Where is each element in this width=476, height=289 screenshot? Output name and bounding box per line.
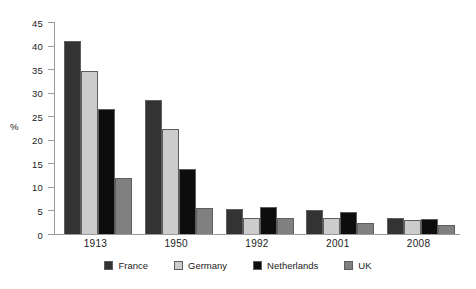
legend-label: UK: [358, 260, 371, 271]
y-tick-label: 30: [32, 88, 43, 99]
y-tick-label: 35: [32, 64, 43, 75]
bar-group-bars: [217, 22, 298, 234]
y-tick-label: 25: [32, 111, 43, 122]
bar-group-bars: [55, 22, 136, 234]
bar: [357, 223, 374, 234]
y-axis-tick: 30: [48, 93, 54, 94]
y-tick-mark: [48, 22, 54, 23]
legend-item: Netherlands: [253, 260, 318, 271]
y-tick-label: 45: [32, 17, 43, 28]
bar: [226, 209, 243, 234]
y-tick-mark: [48, 69, 54, 70]
y-tick-label: 15: [32, 158, 43, 169]
y-tick-mark: [48, 187, 54, 188]
legend-item: UK: [344, 260, 371, 271]
bar: [260, 207, 277, 234]
bar: [145, 100, 162, 234]
bar: [196, 208, 213, 234]
y-tick-label: 10: [32, 182, 43, 193]
y-tick-label: 40: [32, 41, 43, 52]
y-tick-mark: [48, 163, 54, 164]
y-axis-tick: 20: [48, 140, 54, 141]
legend-swatch-icon: [104, 261, 113, 270]
y-tick-label: 0: [38, 229, 43, 240]
y-tick-mark: [48, 46, 54, 47]
bar: [404, 220, 421, 234]
legend-swatch-icon: [344, 261, 353, 270]
y-axis-tick: 35: [48, 69, 54, 70]
bar: [323, 218, 340, 234]
bar: [421, 219, 438, 234]
bar-group-bars: [297, 22, 378, 234]
bar: [243, 218, 260, 234]
bar-group: 1913: [55, 22, 136, 234]
bar-group: 1950: [136, 22, 217, 234]
bar: [98, 109, 115, 234]
y-tick-mark: [48, 116, 54, 117]
y-tick-mark: [48, 210, 54, 211]
bar: [115, 178, 132, 234]
x-tick-label: 2008: [378, 238, 459, 249]
y-axis-tick: 0: [48, 234, 54, 235]
x-tick-label: 1992: [217, 238, 298, 249]
bar: [162, 129, 179, 234]
legend-label: Germany: [188, 260, 227, 271]
x-tick-label: 1913: [55, 238, 136, 249]
y-axis-title: %: [10, 121, 18, 132]
legend-swatch-icon: [253, 261, 262, 270]
bar-chart: % 051015202530354045 1913195019922001200…: [0, 0, 476, 289]
bar-group: 2001: [297, 22, 378, 234]
x-axis-line: [54, 234, 460, 235]
y-axis-tick: 10: [48, 187, 54, 188]
legend-item: Germany: [174, 260, 227, 271]
y-axis-tick: 40: [48, 46, 54, 47]
bar: [387, 218, 404, 234]
x-tick-label: 2001: [297, 238, 378, 249]
bar: [306, 210, 323, 234]
legend-swatch-icon: [174, 261, 183, 270]
y-tick-label: 20: [32, 135, 43, 146]
chart-legend: FranceGermanyNetherlandsUK: [0, 260, 476, 271]
plot-area: 19131950199220012008: [55, 22, 459, 234]
legend-item: France: [104, 260, 148, 271]
bar-group-bars: [136, 22, 217, 234]
bar: [81, 71, 98, 234]
y-tick-mark: [48, 234, 54, 235]
legend-label: Netherlands: [267, 260, 318, 271]
x-tick-label: 1950: [136, 238, 217, 249]
bar: [340, 212, 357, 234]
y-axis-tick: 5: [48, 210, 54, 211]
bar-group-bars: [378, 22, 459, 234]
bar: [64, 41, 81, 234]
y-tick-label: 5: [38, 205, 43, 216]
y-axis-tick: 45: [48, 22, 54, 23]
y-axis-tick: 15: [48, 163, 54, 164]
bar: [438, 225, 455, 234]
y-tick-mark: [48, 140, 54, 141]
bar-group: 2008: [378, 22, 459, 234]
bar: [179, 169, 196, 234]
y-axis-tick: 25: [48, 116, 54, 117]
bar-group: 1992: [217, 22, 298, 234]
y-tick-mark: [48, 93, 54, 94]
bar: [277, 218, 294, 234]
legend-label: France: [118, 260, 148, 271]
